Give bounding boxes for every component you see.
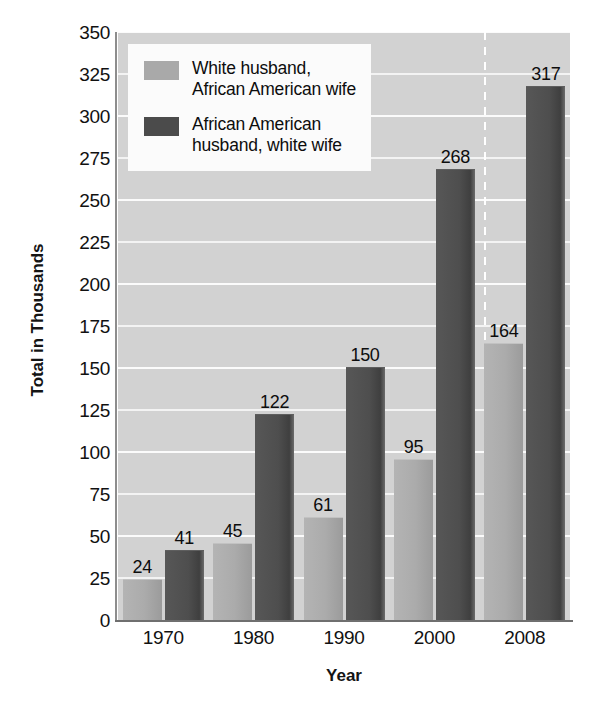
y-axis-tick: 300	[48, 107, 110, 126]
y-axis-tick: 175	[48, 317, 110, 336]
bar-value-label: 95	[384, 438, 443, 456]
y-axis-tick: 50	[48, 527, 110, 546]
bar-1980-series0	[213, 543, 252, 620]
y-axis-line	[115, 32, 117, 622]
gridline	[118, 283, 570, 285]
bar-value-label: 317	[516, 65, 575, 83]
bar-2000-series0	[394, 459, 433, 620]
y-axis-tick: 200	[48, 275, 110, 294]
x-axis-tick-2008: 2008	[485, 628, 565, 647]
legend-swatch-icon	[144, 117, 179, 136]
x-axis-tick-1980: 1980	[214, 628, 294, 647]
bar-value-label: 24	[113, 558, 172, 576]
x-axis-tick-1970: 1970	[123, 628, 203, 647]
y-axis-tick: 25	[48, 569, 110, 588]
y-axis-tick-labels: 0255075100125150175200225250275300325350	[48, 32, 110, 620]
y-axis-tick: 125	[48, 401, 110, 420]
y-axis-tick: 350	[48, 23, 110, 42]
y-axis-tick: 100	[48, 443, 110, 462]
bar-chart: Total in Thousands 025507510012515017520…	[0, 0, 601, 714]
y-axis-tick: 150	[48, 359, 110, 378]
bar-value-label: 45	[203, 522, 262, 540]
bar-2008-series0	[484, 343, 523, 620]
gridline	[118, 32, 570, 33]
gridline	[118, 199, 570, 201]
x-axis-tick-2000: 2000	[394, 628, 474, 647]
gridline	[118, 241, 570, 243]
x-axis-tick-1990: 1990	[304, 628, 384, 647]
legend-swatch-icon	[144, 61, 179, 80]
bar-value-label: 61	[294, 496, 353, 514]
bar-1980-series1	[255, 414, 294, 620]
bar-1990-series1	[346, 367, 385, 620]
bar-value-label: 268	[426, 148, 485, 166]
bar-1990-series0	[304, 517, 343, 620]
x-axis-line	[115, 620, 573, 622]
bar-value-label: 150	[336, 346, 395, 364]
y-axis-tick: 225	[48, 233, 110, 252]
x-axis-tick-labels: 19701980199020002008	[118, 628, 570, 656]
x-axis-title: Year	[118, 666, 570, 686]
y-axis-tick: 0	[48, 611, 110, 630]
legend-item-1[interactable]: African American husband, white wife	[144, 114, 342, 156]
y-axis-tick: 75	[48, 485, 110, 504]
chart-legend: White husband, African American wifeAfri…	[128, 44, 371, 171]
bar-2000-series1	[436, 169, 475, 620]
bar-2008-series1	[526, 86, 565, 620]
legend-item-0[interactable]: White husband, African American wife	[144, 58, 356, 100]
y-axis-tick: 275	[48, 149, 110, 168]
bar-value-label: 122	[245, 393, 304, 411]
y-axis-tick: 325	[48, 65, 110, 84]
legend-label: African American husband, white wife	[192, 114, 342, 156]
y-axis-tick: 250	[48, 191, 110, 210]
bar-value-label: 164	[474, 322, 533, 340]
legend-label: White husband, African American wife	[192, 58, 356, 100]
bar-1970-series0	[123, 579, 162, 620]
y-axis-title: Total in Thousands	[28, 180, 48, 460]
